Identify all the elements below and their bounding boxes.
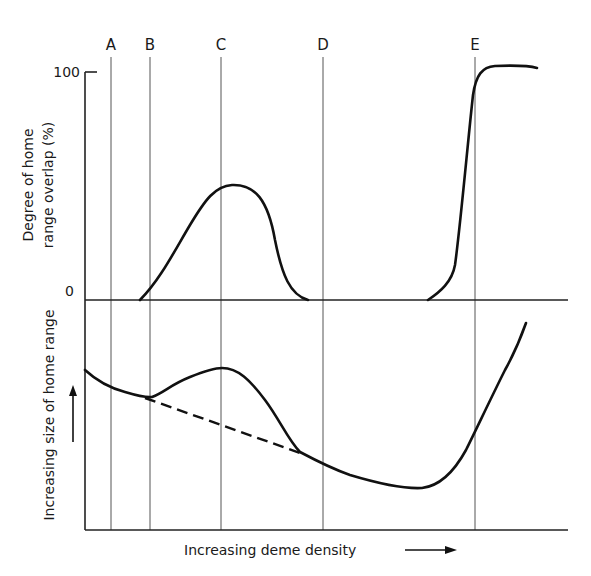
overlap-curve-peak — [140, 185, 308, 300]
right-arrow-icon — [405, 546, 457, 554]
up-arrow-icon — [69, 385, 77, 442]
bottom-y-axis-title: Increasing size of home range — [41, 309, 57, 520]
label-e: E — [470, 36, 479, 54]
tick-label-0: 0 — [65, 283, 74, 299]
label-d: D — [317, 36, 329, 54]
expected-home-range-dashed-line — [145, 398, 300, 453]
chart-figure: A B C D E 100 0 Degree of home range ove… — [0, 0, 591, 576]
label-b: B — [145, 36, 155, 54]
label-a: A — [106, 36, 117, 54]
x-axis-title: Increasing deme density — [184, 542, 356, 558]
tick-label-100: 100 — [53, 64, 80, 80]
label-c: C — [216, 36, 226, 54]
home-range-curve — [85, 323, 526, 488]
overlap-curve-rise — [428, 66, 537, 300]
top-y-axis-title-line2: range overlap (%) — [40, 122, 56, 248]
top-y-axis-title-line1: Degree of home — [20, 128, 36, 241]
